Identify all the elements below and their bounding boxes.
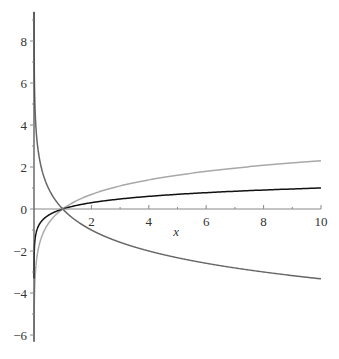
y-tick-label: 6 [21,76,28,91]
x-tick-label: 6 [203,214,210,229]
series-line [34,161,321,341]
x-tick-label: 4 [146,214,153,229]
y-tick-label: 2 [21,160,28,175]
axes [34,12,321,342]
chart: 246810 −6−4−202468 x [0,0,339,359]
y-tick-label: 4 [21,118,28,133]
x-tick-label: 2 [88,214,95,229]
y-tick-label: 8 [21,34,28,49]
x-tick-label: 10 [315,214,328,229]
x-tick-label: 8 [260,214,267,229]
curves [34,12,321,341]
y-tick-label: −6 [13,328,27,343]
y-ticks: −6−4−202468 [13,20,34,343]
x-axis-label: x [172,224,179,239]
y-tick-label: −2 [13,244,27,259]
y-tick-label: −4 [13,286,27,301]
y-tick-label: 0 [21,202,28,217]
